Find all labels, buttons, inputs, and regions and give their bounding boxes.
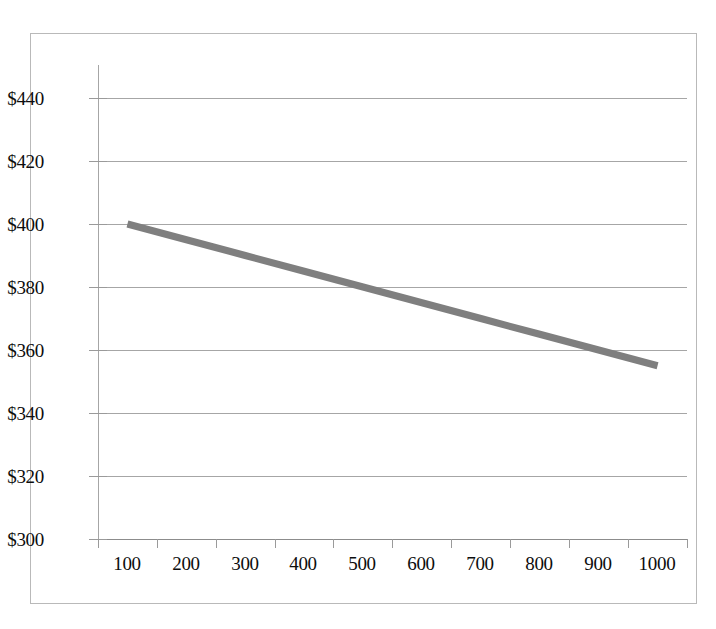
- data-series-layer: [31, 34, 698, 605]
- data-series-line: [127, 224, 657, 366]
- chart-frame: $440 $420 $400 $380 $360 $340 $320 $300 …: [30, 33, 697, 604]
- plot-area: $440 $420 $400 $380 $360 $340 $320 $300 …: [31, 34, 696, 603]
